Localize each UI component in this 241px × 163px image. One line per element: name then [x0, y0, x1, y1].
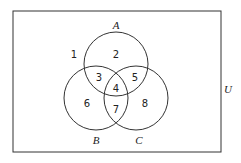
- region-1-label: 1: [71, 49, 77, 60]
- set-a-label: A: [112, 19, 120, 31]
- region-4-label: 4: [113, 83, 119, 94]
- region-7-label: 7: [113, 104, 119, 115]
- set-c-label: C: [135, 134, 143, 146]
- venn-diagram: A B C U 1 2 3 4 5 6 7 8: [0, 0, 241, 163]
- region-6-label: 6: [84, 98, 90, 109]
- region-3-label: 3: [96, 72, 102, 83]
- venn-svg: A B C U 1 2 3 4 5 6 7 8: [0, 0, 241, 163]
- set-b-label: B: [93, 134, 100, 146]
- region-8-label: 8: [142, 98, 148, 109]
- region-2-label: 2: [113, 49, 119, 60]
- region-5-label: 5: [132, 72, 138, 83]
- universe-label: U: [224, 83, 233, 95]
